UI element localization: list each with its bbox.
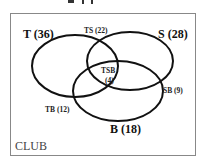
intersection-tsb-count: (4) (105, 76, 114, 85)
set-t-label: T (36) (23, 27, 54, 41)
intersection-sb-label: SB (9) (163, 86, 183, 95)
venn-diagram: T (36) S (28) B (18) TS (22) SB (9) TB (… (0, 0, 204, 162)
cropped-heading-fragment (68, 0, 93, 4)
set-s-label: S (28) (158, 27, 188, 41)
universe-label: CLUB (15, 139, 47, 153)
intersection-tsb-label: TSB (101, 66, 115, 75)
intersection-tb-label: TB (12) (45, 105, 70, 114)
set-b-label: B (18) (110, 122, 141, 136)
intersection-ts-label: TS (22) (84, 26, 108, 35)
